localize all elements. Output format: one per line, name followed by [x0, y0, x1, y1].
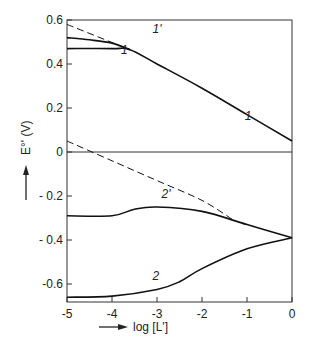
y-tick-label: 0.2: [46, 101, 63, 115]
x-tick-label: 0: [289, 307, 296, 321]
y-axis-title: E°' (V): [19, 121, 33, 155]
curve-label: 1': [153, 22, 163, 36]
x-tick-label: -3: [152, 307, 163, 321]
x-tick-label: -2: [197, 307, 208, 321]
x-axis-title: log [L']: [133, 320, 168, 334]
series-2-limit: [67, 141, 234, 220]
x-axis-arrow: [99, 324, 128, 330]
y-tick-label: - 0.2: [39, 189, 63, 203]
x-tick-label: -4: [107, 307, 118, 321]
y-axis-arrow: [23, 165, 29, 200]
y-tick-label: -0.6: [42, 277, 63, 291]
y-tick-label: 0: [56, 145, 63, 159]
curve-label: 1: [245, 109, 252, 123]
x-tick-label: -1: [242, 307, 253, 321]
series-1: [67, 48, 292, 141]
curve-label: 2: [152, 269, 160, 283]
curve-label: 1: [121, 43, 128, 57]
y-tick-label: 0.6: [46, 13, 63, 27]
y-tick-label: - 0.4: [39, 233, 63, 247]
curve-label: 2': [161, 187, 172, 201]
series-2: [67, 238, 292, 297]
x-tick-label: -5: [62, 307, 73, 321]
plot-frame: [67, 20, 292, 302]
y-tick-label: 0.4: [46, 57, 63, 71]
chart: -5-4-3-2-100.60.40.20- 0.2- 0.4-0.61'112…: [0, 0, 309, 344]
series-2-: [67, 207, 292, 238]
plot-area: -5-4-3-2-100.60.40.20- 0.2- 0.4-0.61'112…: [39, 13, 296, 321]
